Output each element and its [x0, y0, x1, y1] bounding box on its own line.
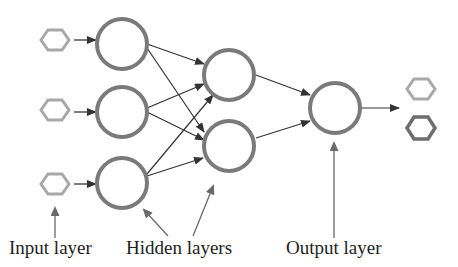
input-layer-label: Input layer — [9, 238, 92, 257]
hidden-node — [204, 121, 254, 171]
hidden-node — [97, 87, 147, 137]
input-node-icon — [41, 30, 69, 50]
output-layer-label: Output layer — [286, 238, 382, 257]
input-node-icon — [41, 174, 69, 194]
hidden-node — [97, 158, 147, 208]
output-node — [310, 83, 360, 133]
input-edges — [74, 40, 96, 184]
hidden-node — [97, 19, 147, 69]
output-value-light-icon — [407, 79, 435, 99]
hidden-layers-label: Hidden layers — [126, 238, 232, 257]
output-value-dark-icon — [407, 117, 435, 139]
network-diagram — [0, 0, 458, 267]
input-node-icon — [41, 100, 69, 120]
hidden-edges — [147, 44, 213, 176]
hidden-node — [204, 50, 254, 100]
